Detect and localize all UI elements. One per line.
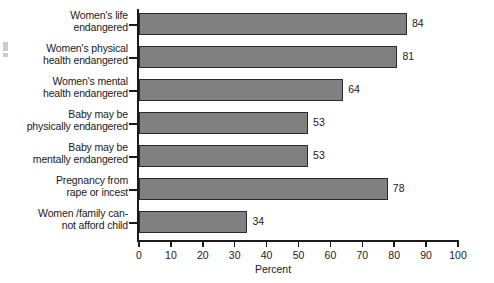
x-axis-tick <box>362 242 364 247</box>
bar-row: Women's mental health endangered64 <box>0 75 494 108</box>
category-tick <box>129 156 137 158</box>
category-label: Women /family can- not afford child <box>0 207 128 232</box>
bar-row: Baby may be mentally endangered53 <box>0 141 494 174</box>
category-tick <box>129 189 137 191</box>
category-tick <box>129 222 137 224</box>
x-axis-tick <box>170 242 172 247</box>
x-axis-tick-label: 10 <box>165 249 177 261</box>
x-axis-tick-label: 100 <box>449 249 467 261</box>
x-axis-tick-label: 20 <box>197 249 209 261</box>
bar <box>139 46 397 68</box>
bar-value-label: 53 <box>313 149 325 161</box>
bar <box>139 112 308 134</box>
category-tick <box>129 57 137 59</box>
bar-row: Women's physical health endangered81 <box>0 42 494 75</box>
bar <box>139 178 388 200</box>
bar-value-label: 53 <box>313 116 325 128</box>
bar <box>139 211 247 233</box>
bar <box>139 145 308 167</box>
bar-row: Women /family can- not afford child34 <box>0 207 494 240</box>
bar-value-label: 64 <box>348 83 360 95</box>
x-axis-tick-label: 50 <box>293 249 305 261</box>
x-axis-tick <box>457 242 459 247</box>
bar-value-label: 78 <box>393 182 405 194</box>
category-label: Baby may be physically endangered <box>0 108 128 133</box>
bar <box>139 79 343 101</box>
bar-value-label: 84 <box>412 17 424 29</box>
x-axis-tick-label: 40 <box>261 249 273 261</box>
category-tick <box>129 90 137 92</box>
category-label: Baby may be mentally endangered <box>0 141 128 166</box>
x-axis-tick-label: 90 <box>420 249 432 261</box>
x-axis-tick-label: 60 <box>325 249 337 261</box>
x-axis-tick <box>330 242 332 247</box>
bar-row: Women's life endangered84 <box>0 9 494 42</box>
x-axis-tick-label: 70 <box>356 249 368 261</box>
x-axis-tick <box>425 242 427 247</box>
category-label: Women's mental health endangered <box>0 75 128 100</box>
x-axis-title: Percent <box>0 263 494 275</box>
category-tick <box>129 123 137 125</box>
bar-row: Pregnancy from rape or incest78 <box>0 174 494 207</box>
bar-row: Baby may be physically endangered53 <box>0 108 494 141</box>
bar <box>139 13 407 35</box>
x-axis-title-text: Percent <box>255 263 291 275</box>
x-axis-tick-label: 0 <box>136 249 142 261</box>
x-axis-tick <box>202 242 204 247</box>
bar-value-label: 34 <box>252 215 264 227</box>
x-axis-tick-label: 80 <box>388 249 400 261</box>
bar-value-label: 81 <box>402 50 414 62</box>
x-axis-tick <box>393 242 395 247</box>
x-axis-tick-label: 30 <box>229 249 241 261</box>
x-axis-tick <box>234 242 236 247</box>
category-label: Women's life endangered <box>0 9 128 34</box>
x-axis-tick <box>138 242 140 247</box>
category-label: Women's physical health endangered <box>0 42 128 67</box>
category-tick <box>129 24 137 26</box>
category-label: Pregnancy from rape or incest <box>0 174 128 199</box>
x-axis-tick <box>266 242 268 247</box>
horizontal-bar-chart: Women's life endangered84Women's physica… <box>0 0 494 283</box>
x-axis-tick <box>298 242 300 247</box>
